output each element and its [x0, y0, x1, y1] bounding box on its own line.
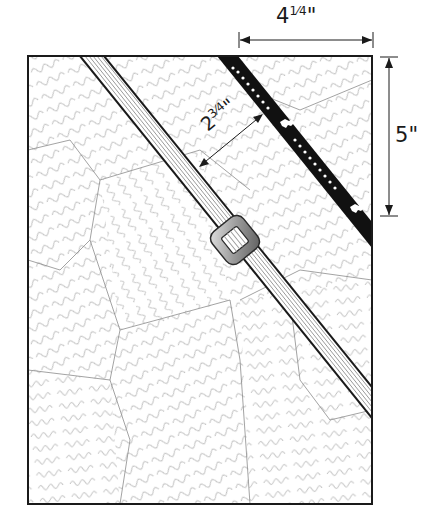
width-dimension-label: 41⁄4" [276, 4, 316, 28]
layout-diagram [0, 0, 438, 529]
height-dimension-label: 5" [395, 123, 418, 147]
width-dimension [239, 32, 373, 48]
